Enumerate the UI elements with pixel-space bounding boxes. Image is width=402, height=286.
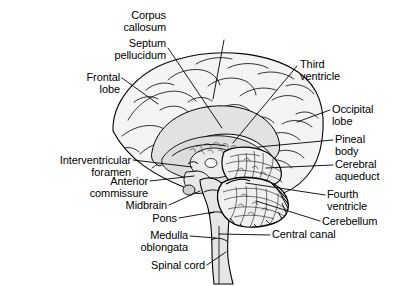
label-pons: Pons [152, 213, 177, 225]
label-pineal-body: Pineal body [335, 134, 365, 157]
label-anterior-commissure: Anterior commissure [90, 176, 148, 199]
label-central-canal: Central canal [272, 229, 336, 241]
interthalamic-adhesion [205, 159, 217, 168]
brain-anatomy-figure: Corpus callosum Septum pellucidum Fronta… [0, 0, 402, 286]
label-septum-pellucidum: Septum pellucidum [114, 38, 166, 61]
label-occipital-lobe: Occipital lobe [332, 104, 373, 127]
label-cerebral-aqueduct: Cerebral aqueduct [335, 159, 379, 182]
label-medulla-oblongata: Medulla oblongata [141, 230, 188, 253]
leader-pons [179, 212, 214, 218]
label-spinal-cord: Spinal cord [151, 260, 205, 272]
label-third-ventricle: Third ventricle [300, 59, 340, 82]
label-midbrain: Midbrain [126, 200, 167, 212]
pituitary-shape [183, 185, 195, 195]
label-cerebellum: Cerebellum [322, 216, 377, 228]
label-fourth-ventricle: Fourth ventricle [327, 189, 367, 212]
label-frontal-lobe: Frontal lobe [86, 72, 120, 95]
label-corpus-callosum: Corpus callosum [123, 10, 166, 33]
